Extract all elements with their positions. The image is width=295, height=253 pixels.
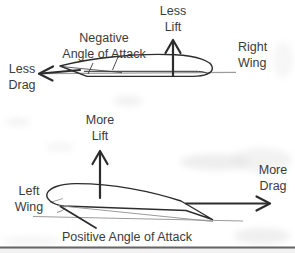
- positive-aoa-label: Positive Angle of Attack: [47, 229, 207, 245]
- more-drag-label-line2: Drag: [252, 178, 294, 194]
- more-lift-label-line2: Lift: [72, 128, 128, 144]
- right-wing-label-line1: Right: [238, 39, 292, 55]
- more-lift-label: More Lift: [72, 112, 128, 144]
- page-edge-shadow: [0, 249, 295, 253]
- more-lift-arrow: [93, 151, 108, 198]
- negative-aoa-label: Negative Angle of Attack: [40, 30, 168, 62]
- negative-aoa-label-line1: Negative: [40, 30, 168, 46]
- negative-aoa-label-line2: Angle of Attack: [40, 46, 168, 62]
- page-edge-line: [0, 247, 295, 249]
- left-wing-label: Left Wing: [6, 183, 52, 215]
- less-drag-label-line1: Less: [1, 61, 43, 77]
- positive-aoa-label-text: Positive Angle of Attack: [47, 229, 207, 245]
- more-lift-label-line1: More: [72, 112, 128, 128]
- more-drag-label: More Drag: [252, 162, 294, 194]
- more-drag-label-line1: More: [252, 162, 294, 178]
- less-drag-label: Less Drag: [1, 61, 43, 93]
- more-drag-arrow: [186, 197, 270, 211]
- negative-aoa-tick-line: [88, 63, 93, 74]
- less-lift-label-line1: Less: [141, 3, 205, 19]
- left-wing-label-line1: Left: [6, 183, 52, 199]
- right-wing-label: Right Wing: [238, 39, 292, 71]
- left-wing-label-line2: Wing: [6, 199, 52, 215]
- right-wing-label-line2: Wing: [238, 55, 292, 71]
- less-drag-label-line2: Drag: [1, 77, 43, 93]
- angle-of-attack-diagram: Less Lift Negative Angle of Attack Right…: [0, 0, 295, 253]
